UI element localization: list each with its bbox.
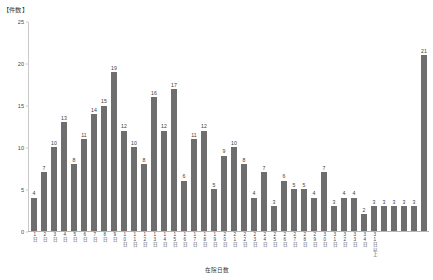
bar-value-label: 3 — [333, 200, 336, 205]
bar[interactable]: 10 — [51, 147, 57, 231]
x-label-slot: 11日 — [129, 232, 139, 266]
x-label-slot — [409, 232, 419, 266]
bar-value-label: 9 — [223, 149, 226, 154]
bar[interactable]: 3 — [371, 206, 377, 231]
bar[interactable]: 5 — [291, 189, 297, 231]
x-label-slot: 10日 — [119, 232, 129, 266]
x-label-slot: 18日 — [199, 232, 209, 266]
bar[interactable]: 12 — [201, 131, 207, 231]
bar-slot: 3 — [369, 22, 379, 231]
bar[interactable]: 2 — [361, 214, 367, 231]
bar[interactable]: 16 — [151, 97, 157, 231]
bar[interactable]: 13 — [61, 122, 67, 231]
x-label-slot: 23日 — [249, 232, 259, 266]
bar-value-label: 3 — [413, 200, 416, 205]
bar-slot: 3 — [329, 22, 339, 231]
bar[interactable]: 3 — [331, 206, 337, 231]
bar[interactable]: 9 — [221, 156, 227, 231]
x-label-slot: 29日 — [309, 232, 319, 266]
bar[interactable]: 4 — [311, 198, 317, 231]
x-label-slot: 14日 — [159, 232, 169, 266]
x-label-slot: 26日 — [279, 232, 289, 266]
x-axis-tick-labels: 1日2日3日4日5日6日7日8日9日10日11日12日13日14日15日16日1… — [29, 232, 429, 266]
bar[interactable]: 3 — [411, 206, 417, 231]
bar-value-label: 14 — [91, 108, 97, 113]
bar-slot: 3 — [379, 22, 389, 231]
bar-slot: 15 — [99, 22, 109, 231]
bar-value-label: 3 — [373, 200, 376, 205]
x-label-slot: 13日 — [149, 232, 159, 266]
bar[interactable]: 8 — [71, 164, 77, 231]
bar[interactable]: 8 — [141, 164, 147, 231]
bar[interactable]: 5 — [211, 189, 217, 231]
bar[interactable]: 8 — [241, 164, 247, 231]
bar-value-label: 17 — [171, 83, 177, 88]
x-tick-label: 19日 — [212, 232, 217, 247]
bar[interactable]: 10 — [131, 147, 137, 231]
x-tick-label: 21日 — [232, 232, 237, 247]
bar[interactable]: 12 — [161, 131, 167, 231]
bar-value-label: 4 — [33, 191, 36, 196]
x-tick-label: 5日 — [72, 232, 77, 242]
bar-value-label: 5 — [303, 183, 306, 188]
x-tick-label: 2日 — [42, 232, 47, 242]
bar[interactable]: 4 — [251, 198, 257, 231]
y-tick-mark-10 — [26, 148, 28, 149]
x-label-slot: 12日 — [139, 232, 149, 266]
x-axis-title: 在院日数 — [0, 266, 433, 274]
bar-value-label: 3 — [393, 200, 396, 205]
bar[interactable]: 7 — [321, 172, 327, 231]
bar[interactable]: 19 — [111, 72, 117, 231]
bar-slot: 4 — [309, 22, 319, 231]
x-label-slot: 16日 — [179, 232, 189, 266]
x-label-slot: 27日 — [289, 232, 299, 266]
x-tick-label: 29日 — [312, 232, 317, 247]
bar[interactable]: 15 — [101, 106, 107, 231]
bar-value-label: 15 — [101, 99, 107, 104]
x-label-slot: 28日 — [299, 232, 309, 266]
bar[interactable]: 4 — [31, 198, 37, 231]
y-tick-mark-5 — [26, 190, 28, 191]
x-tick-label: 24日 — [262, 232, 267, 247]
x-label-slot: 25日 — [269, 232, 279, 266]
x-tick-label: 18日 — [202, 232, 207, 247]
bar[interactable]: 21 — [421, 55, 427, 231]
bar[interactable]: 11 — [81, 139, 87, 231]
bar[interactable]: 12 — [121, 131, 127, 231]
bar-value-label: 10 — [51, 141, 57, 146]
bar-value-label: 12 — [201, 124, 207, 129]
bar[interactable]: 3 — [401, 206, 407, 231]
bar-slot: 8 — [139, 22, 149, 231]
x-tick-label: 17日 — [192, 232, 197, 247]
bar[interactable]: 14 — [91, 114, 97, 231]
bar[interactable]: 7 — [41, 172, 47, 231]
x-tick-label: 25日 — [272, 232, 277, 247]
bar[interactable]: 3 — [391, 206, 397, 231]
x-tick-label: 4日 — [62, 232, 67, 242]
x-label-slot: 5日 — [69, 232, 79, 266]
x-label-slot — [399, 232, 409, 266]
bar-slot: 14 — [89, 22, 99, 231]
bar-slot: 10 — [129, 22, 139, 231]
bar[interactable]: 10 — [231, 147, 237, 231]
bar[interactable]: 3 — [271, 206, 277, 231]
bar[interactable]: 5 — [301, 189, 307, 231]
x-tick-label: 7日 — [92, 232, 97, 242]
x-tick-label: 14日 — [162, 232, 167, 247]
bar-slot: 4 — [29, 22, 39, 231]
bar-slot: 11 — [79, 22, 89, 231]
bar-slot: 3 — [409, 22, 419, 231]
chart-root: 【件数】 0510152025 471013811141519121081612… — [0, 0, 433, 280]
bar-value-label: 4 — [343, 191, 346, 196]
x-label-slot: 6日 — [79, 232, 89, 266]
bar[interactable]: 11 — [191, 139, 197, 231]
bar[interactable]: 4 — [341, 198, 347, 231]
bar[interactable]: 17 — [171, 89, 177, 231]
bar-value-label: 2 — [363, 208, 366, 213]
bar[interactable]: 6 — [281, 181, 287, 231]
bar[interactable]: 4 — [351, 198, 357, 231]
bar[interactable]: 7 — [261, 172, 267, 231]
bar-value-label: 11 — [191, 133, 196, 138]
bar[interactable]: 3 — [381, 206, 387, 231]
bar[interactable]: 6 — [181, 181, 187, 231]
